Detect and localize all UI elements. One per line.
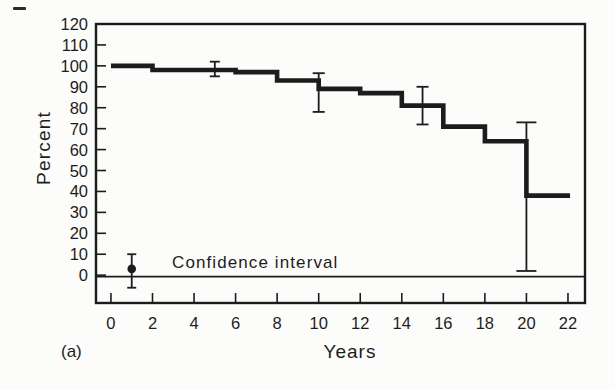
plot-frame [96,24,585,303]
y-tick-label: 0 [79,266,88,284]
y-tick-label: 100 [60,57,88,75]
x-tick-label: 2 [148,314,157,332]
x-tick-label: 4 [189,314,198,332]
legend-label: Confidence interval [172,253,338,273]
survival-step-curve [111,66,570,196]
x-tick-label: 12 [351,314,369,332]
x-tick-label: 18 [476,314,494,332]
y-tick-label: 40 [70,182,88,200]
x-tick-label: 16 [434,314,452,332]
survival-chart-figure: 0246810121416182022010203040506070809010… [0,0,615,390]
x-tick-label: 22 [559,314,577,332]
y-tick-label: 120 [60,15,88,33]
x-tick-label: 14 [393,314,411,332]
y-tick-label: 20 [70,224,88,242]
x-tick-label: 20 [517,314,535,332]
y-axis-title: Percent [33,111,55,185]
y-tick-label: 60 [70,141,88,159]
x-tick-label: 0 [106,314,115,332]
x-tick-label: 10 [310,314,328,332]
x-axis-title: Years [324,341,377,363]
x-tick-label: 8 [273,314,282,332]
legend-dot-marker [127,265,136,274]
survival-chart-canvas: 0246810121416182022010203040506070809010… [0,0,615,390]
panel-label: (a) [61,342,82,362]
y-tick-label: 10 [70,245,88,263]
y-tick-label: 70 [70,120,88,138]
y-tick-label: 50 [70,162,88,180]
y-tick-label: 90 [70,78,88,96]
y-tick-label: 110 [62,36,88,54]
scan-artifact-mark [13,7,26,10]
x-tick-label: 6 [231,314,240,332]
y-tick-label: 80 [70,99,88,117]
y-tick-label: 30 [70,203,88,221]
